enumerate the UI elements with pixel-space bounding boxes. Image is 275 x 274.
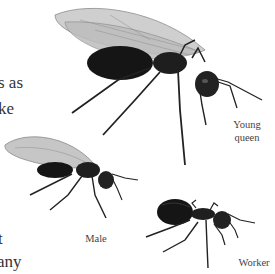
young-queen-label-line2: queen	[227, 131, 267, 144]
male-label: Male	[79, 232, 113, 245]
young-queen-label-line1: Young	[227, 118, 267, 131]
worker-label: Worker	[234, 256, 274, 269]
young-queen-label: Young queen	[227, 118, 267, 144]
